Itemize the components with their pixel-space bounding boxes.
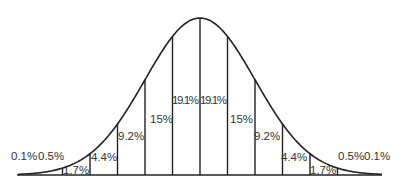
label-left-band-6: 19.1%: [172, 94, 199, 106]
label-right-band-6: 19.1%: [200, 94, 227, 106]
label-left-band-2: 1.7%: [63, 164, 89, 176]
label-left-tail: 0.1%: [11, 150, 37, 162]
label-left-band-4: 9.2%: [118, 130, 144, 142]
label-right-band-1: 0.5%: [338, 150, 364, 162]
label-right-band-4: 9.2%: [254, 130, 280, 142]
label-right-tail: 0.1%: [364, 150, 390, 162]
label-left-band-3: 4.4%: [91, 151, 117, 163]
label-right-band-3: 4.4%: [281, 151, 307, 163]
label-left-band-5: 15%: [150, 113, 173, 125]
label-right-band-2: 1.7%: [310, 164, 336, 176]
label-right-band-5: 15%: [230, 113, 253, 125]
normal-distribution-chart: 0.1% 0.5% 1.7% 4.4% 9.2% 15% 19.1% 19.1%…: [0, 0, 400, 191]
label-left-band-1: 0.5%: [38, 150, 64, 162]
